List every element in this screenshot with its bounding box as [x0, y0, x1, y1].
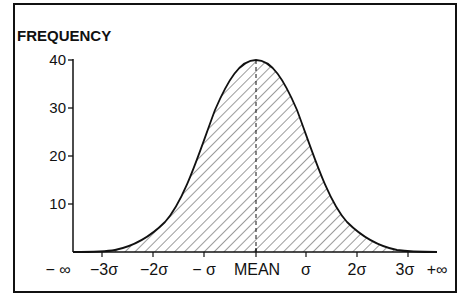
- y-tick-40: 40: [49, 51, 66, 68]
- x-tick-neg-2-sigma: −2σ: [140, 261, 168, 278]
- x-tick-neg-1-sigma: − σ: [192, 261, 216, 278]
- y-axis-title: FREQUENCY: [17, 27, 111, 44]
- y-tick-30: 30: [49, 99, 66, 116]
- x-tick-neg-infinity: − ∞: [45, 261, 70, 278]
- x-tick-labels: − ∞ −3σ −2σ − σ MEAN σ 2σ 3σ +∞: [45, 261, 447, 278]
- x-tick-mean: MEAN: [234, 261, 280, 278]
- x-tick-neg-3-sigma: −3σ: [90, 261, 118, 278]
- x-tick-pos-1-sigma: σ: [301, 261, 311, 278]
- y-tick-10: 10: [49, 195, 66, 212]
- y-tick-20: 20: [49, 147, 66, 164]
- x-tick-pos-3-sigma: 3σ: [396, 261, 415, 278]
- normal-distribution-chart: FREQUENCY 40 30 20 10 − ∞ −3σ −2σ − σ ME…: [0, 0, 464, 297]
- distribution-area: [73, 60, 437, 252]
- y-axis: 40 30 20 10: [49, 51, 73, 252]
- x-tick-pos-infinity: +∞: [427, 261, 448, 278]
- x-tick-pos-2-sigma: 2σ: [348, 261, 367, 278]
